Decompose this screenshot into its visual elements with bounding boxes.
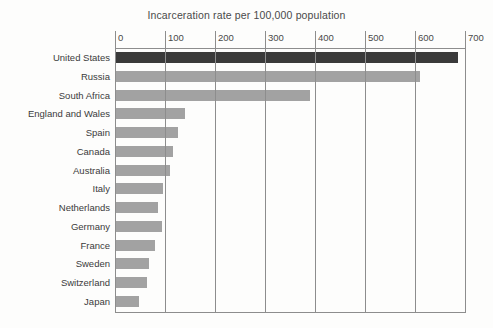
bar-row: Spain bbox=[115, 124, 465, 143]
x-tick-label-300: 300 bbox=[265, 32, 284, 43]
bar-spain bbox=[115, 127, 178, 138]
bar-england-and-wales bbox=[115, 108, 185, 119]
plot-area: 0100200300400500600700 United StatesRuss… bbox=[115, 31, 465, 313]
gridline-400 bbox=[315, 31, 316, 313]
bar-row: Germany bbox=[115, 218, 465, 237]
x-tick-label-600: 600 bbox=[415, 32, 434, 43]
gridline-700 bbox=[465, 31, 466, 313]
bar-united-states bbox=[115, 52, 458, 63]
bar-row: England and Wales bbox=[115, 105, 465, 124]
x-tick-label-500: 500 bbox=[365, 32, 384, 43]
gridline-0 bbox=[115, 31, 116, 313]
bar-row: Japan bbox=[115, 293, 465, 312]
category-label-united-states: United States bbox=[0, 52, 110, 63]
category-label-japan: Japan bbox=[0, 296, 110, 307]
bar-australia bbox=[115, 165, 170, 176]
plot-bottom-line bbox=[115, 312, 466, 313]
gridline-600 bbox=[415, 31, 416, 313]
bar-row: Netherlands bbox=[115, 199, 465, 218]
bar-canada bbox=[115, 146, 173, 157]
bar-row: Australia bbox=[115, 162, 465, 181]
category-label-netherlands: Netherlands bbox=[0, 202, 110, 213]
category-label-england-and-wales: England and Wales bbox=[0, 108, 110, 119]
category-label-france: France bbox=[0, 240, 110, 251]
category-label-australia: Australia bbox=[0, 165, 110, 176]
category-label-germany: Germany bbox=[0, 221, 110, 232]
x-tick-label-700: 700 bbox=[465, 32, 484, 43]
category-label-sweden: Sweden bbox=[0, 258, 110, 269]
bar-row: Italy bbox=[115, 180, 465, 199]
bar-row: France bbox=[115, 237, 465, 256]
bar-row: South Africa bbox=[115, 87, 465, 106]
bar-row: Switzerland bbox=[115, 274, 465, 293]
chart-title: Incarceration rate per 100,000 populatio… bbox=[0, 9, 493, 21]
bar-sweden bbox=[115, 258, 149, 269]
bar-netherlands bbox=[115, 202, 158, 213]
bar-south-africa bbox=[115, 90, 310, 101]
category-label-italy: Italy bbox=[0, 183, 110, 194]
x-axis-tick-labels: 0100200300400500600700 bbox=[115, 31, 465, 48]
bar-row: United States bbox=[115, 49, 465, 68]
x-tick-label-0: 0 bbox=[115, 32, 123, 43]
gridline-500 bbox=[365, 31, 366, 313]
category-label-south-africa: South Africa bbox=[0, 90, 110, 101]
bar-russia bbox=[115, 71, 420, 82]
gridline-300 bbox=[265, 31, 266, 313]
bar-rows: United StatesRussiaSouth AfricaEngland a… bbox=[115, 49, 465, 312]
bar-row: Russia bbox=[115, 68, 465, 87]
bar-chart: Incarceration rate per 100,000 populatio… bbox=[0, 0, 493, 328]
category-label-russia: Russia bbox=[0, 71, 110, 82]
x-tick-label-400: 400 bbox=[315, 32, 334, 43]
bar-france bbox=[115, 240, 155, 251]
category-label-switzerland: Switzerland bbox=[0, 277, 110, 288]
gridline-200 bbox=[215, 31, 216, 313]
x-tick-label-200: 200 bbox=[215, 32, 234, 43]
category-label-canada: Canada bbox=[0, 146, 110, 157]
bar-germany bbox=[115, 221, 162, 232]
gridline-100 bbox=[165, 31, 166, 313]
bar-japan bbox=[115, 296, 139, 307]
bar-switzerland bbox=[115, 277, 147, 288]
bar-row: Sweden bbox=[115, 255, 465, 274]
bar-italy bbox=[115, 183, 163, 194]
category-label-spain: Spain bbox=[0, 127, 110, 138]
bar-row: Canada bbox=[115, 143, 465, 162]
x-tick-label-100: 100 bbox=[165, 32, 184, 43]
